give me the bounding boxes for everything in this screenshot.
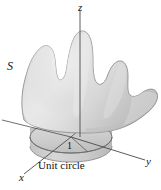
axis-label-z: z xyxy=(78,2,82,13)
figure-container: z y x S 1 Unit circle xyxy=(0,0,161,190)
surface-s xyxy=(18,26,157,134)
axis-label-x: x xyxy=(19,172,24,183)
unit-radius-label: 1 xyxy=(67,141,72,151)
axis-label-y: y xyxy=(146,156,151,167)
unit-circle-caption: Unit circle xyxy=(38,160,85,171)
surface-label-s: S xyxy=(7,60,13,72)
